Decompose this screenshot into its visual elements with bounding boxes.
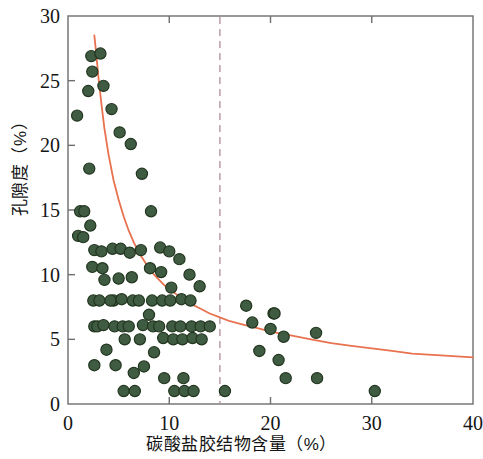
- scatter-point: [265, 323, 276, 334]
- scatter-point: [98, 80, 109, 91]
- plot-border: [68, 16, 473, 404]
- scatter-point: [159, 373, 170, 384]
- scatter-point: [113, 273, 124, 284]
- scatter-point: [89, 360, 100, 371]
- scatter-point: [83, 85, 94, 96]
- scatter-point: [136, 168, 147, 179]
- scatter-point: [311, 373, 322, 384]
- scatter-point: [166, 282, 177, 293]
- y-tick-label: 5: [14, 329, 60, 349]
- scatter-point: [269, 308, 280, 319]
- scatter-point: [133, 295, 144, 306]
- scatter-point: [98, 320, 109, 331]
- y-tick-label: 30: [14, 6, 60, 26]
- scatter-point: [87, 261, 98, 272]
- scatter-point: [154, 321, 165, 332]
- scatter-point: [128, 367, 139, 378]
- scatter-point: [177, 334, 188, 345]
- scatter-point: [175, 321, 186, 332]
- scatter-point: [369, 385, 380, 396]
- scatter-point: [101, 344, 112, 355]
- scatter-plot-canvas: [0, 0, 483, 459]
- scatter-point: [184, 269, 195, 280]
- y-tick-label: 10: [14, 265, 60, 285]
- scatter-point: [254, 345, 265, 356]
- scatter-point: [204, 321, 215, 332]
- scatter-point: [99, 274, 110, 285]
- scatter-point: [219, 385, 230, 396]
- chart-figure: 051015202530010203040 碳酸盐胶结物含量（%） 孔隙度（%）: [0, 0, 483, 459]
- scatter-point: [96, 246, 107, 257]
- scatter-point: [94, 295, 105, 306]
- scatter-point: [144, 263, 155, 274]
- scatter-point: [124, 247, 135, 258]
- scatter-point: [169, 385, 180, 396]
- scatter-point: [79, 206, 90, 217]
- scatter-point: [123, 321, 134, 332]
- scatter-point: [72, 110, 83, 121]
- scatter-point: [273, 354, 284, 365]
- scatter-point: [125, 138, 136, 149]
- scatter-point: [114, 127, 125, 138]
- scatter-point: [278, 331, 289, 342]
- y-axis-title: 孔隙度（%）: [6, 95, 31, 235]
- scatter-point: [143, 309, 154, 320]
- scatter-point: [158, 332, 169, 343]
- scatter-point: [84, 163, 95, 174]
- scatter-point: [164, 246, 175, 257]
- scatter-point: [280, 373, 291, 384]
- scatter-point: [241, 300, 252, 311]
- scatter-point: [165, 295, 176, 306]
- scatter-point: [196, 334, 207, 345]
- scatter-point: [119, 334, 130, 345]
- scatter-point: [126, 272, 137, 283]
- scatter-point: [87, 66, 98, 77]
- scatter-point: [138, 361, 149, 372]
- scatter-point: [178, 373, 189, 384]
- scatter-point: [146, 295, 157, 306]
- scatter-point: [137, 320, 148, 331]
- scatter-point: [247, 317, 258, 328]
- scatter-point: [310, 327, 321, 338]
- scatter-point: [174, 254, 185, 265]
- plot-frame: [68, 16, 473, 404]
- scatter-point: [134, 334, 145, 345]
- scatter-point: [110, 360, 121, 371]
- scatter-point: [188, 385, 199, 396]
- scatter-point: [145, 206, 156, 217]
- scatter-point: [194, 281, 205, 292]
- scatter-point: [148, 347, 159, 358]
- x-axis-title: 碳酸盐胶结物含量（%）: [0, 430, 483, 455]
- scatter-point: [97, 263, 108, 274]
- y-tick-label: 25: [14, 71, 60, 91]
- scatter-point: [156, 266, 167, 277]
- scatter-point: [78, 232, 89, 243]
- scatter-point: [118, 385, 129, 396]
- scatter-point: [95, 48, 106, 59]
- scatter-point: [135, 244, 146, 255]
- y-tick-label: 0: [14, 394, 60, 414]
- scatter-point: [85, 220, 96, 231]
- scatter-point: [106, 104, 117, 115]
- scatter-point: [129, 385, 140, 396]
- scatter-point: [105, 295, 116, 306]
- scatter-point: [116, 294, 127, 305]
- scatter-point: [185, 295, 196, 306]
